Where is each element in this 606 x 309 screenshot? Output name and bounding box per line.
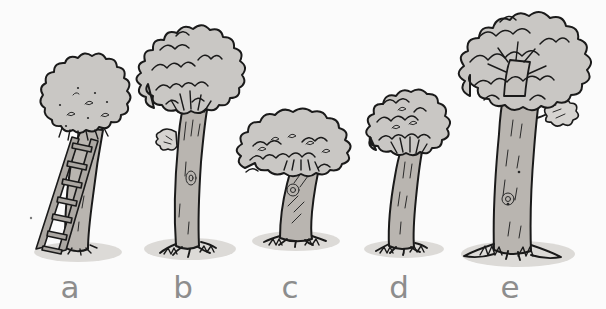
- illustration-scene: .ink { fill:none; stroke:#1a1a1a; stroke…: [0, 0, 606, 309]
- tree-label-d: d: [379, 272, 419, 303]
- tree-label-a: a: [50, 272, 90, 303]
- tree-c-canopy: [237, 109, 351, 177]
- tree-label-b: b: [163, 272, 203, 303]
- tree-d-canopy: [366, 89, 450, 155]
- tree-b-side-sprout: [156, 129, 177, 150]
- tree-e-trunk: [494, 92, 540, 254]
- tree-label-c: c: [270, 272, 310, 303]
- tree-label-e: e: [490, 272, 530, 303]
- tree-d-trunk: [389, 150, 422, 249]
- tree-e: [459, 12, 591, 260]
- tree-d: [366, 89, 450, 255]
- tree-b: [137, 25, 246, 257]
- tree-a: [30, 53, 131, 255]
- tree-b-trunk: [175, 108, 207, 249]
- tree-c: [237, 109, 351, 248]
- tree-a-canopy: [40, 53, 130, 133]
- tree-a-speck: [30, 217, 32, 219]
- trees-illustration: .ink { fill:none; stroke:#1a1a1a; stroke…: [0, 0, 606, 309]
